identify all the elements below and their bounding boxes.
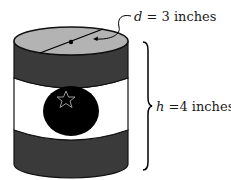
center-point bbox=[69, 40, 73, 44]
cylinder-diagram: d = 3 inches h =4 inches bbox=[0, 0, 231, 180]
diameter-equals: = bbox=[142, 9, 161, 24]
height-equals: = bbox=[164, 99, 179, 114]
logo-circle bbox=[43, 86, 99, 136]
diameter-variable: d bbox=[134, 9, 142, 24]
height-label: h =4 inches bbox=[156, 99, 231, 114]
right-curly-brace bbox=[143, 42, 152, 170]
diameter-value: 3 inches bbox=[162, 9, 217, 24]
height-value: 4 inches bbox=[179, 99, 231, 114]
height-variable: h bbox=[156, 99, 164, 114]
diameter-label: d = 3 inches bbox=[134, 9, 216, 24]
